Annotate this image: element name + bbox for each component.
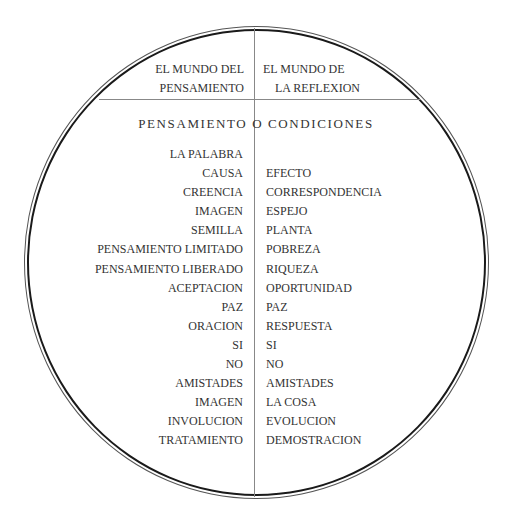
header-right-line-1: EL MUNDO DE	[263, 60, 360, 79]
right-item: EVOLUCION	[266, 412, 382, 431]
right-item: OPORTUNIDAD	[266, 279, 382, 298]
left-item: TRATAMIENTO	[95, 431, 243, 450]
right-item: NO	[266, 355, 382, 374]
left-item: IMAGEN	[95, 393, 243, 412]
left-item: CAUSA	[95, 164, 243, 183]
header-left-line-2: PENSAMIENTO	[155, 79, 244, 98]
right-item: LA COSA	[266, 393, 382, 412]
left-item: INVOLUCION	[95, 412, 243, 431]
horizontal-divider	[99, 99, 421, 100]
left-item: AMISTADES	[95, 374, 243, 393]
right-item: PAZ	[266, 298, 382, 317]
right-item: EFECTO	[266, 164, 382, 183]
left-item: LA PALABRA	[95, 145, 243, 164]
right-item: DEMOSTRACION	[266, 431, 382, 450]
diagram-subtitle: PENSAMIENTO O CONDICIONES	[0, 116, 512, 132]
header-left-line-1: EL MUNDO DEL	[155, 60, 244, 79]
right-column: EFECTO CORRESPONDENCIA ESPEJO PLANTA POB…	[266, 145, 382, 451]
left-item: SI	[95, 336, 243, 355]
left-item: PAZ	[95, 298, 243, 317]
right-item: RESPUESTA	[266, 317, 382, 336]
right-item: CORRESPONDENCIA	[266, 183, 382, 202]
left-item: PENSAMIENTO LIMITADO	[95, 240, 243, 259]
header-world-of-thought: EL MUNDO DEL PENSAMIENTO	[155, 60, 244, 98]
right-item: POBREZA	[266, 240, 382, 259]
header-right-line-2: LA REFLEXION	[263, 79, 360, 98]
right-item: AMISTADES	[266, 374, 382, 393]
right-item	[266, 145, 382, 164]
left-item: CREENCIA	[95, 183, 243, 202]
left-column: LA PALABRA CAUSA CREENCIA IMAGEN SEMILLA…	[95, 145, 243, 451]
right-item: RIQUEZA	[266, 260, 382, 279]
left-item: NO	[95, 355, 243, 374]
right-item: PLANTA	[266, 221, 382, 240]
left-item: SEMILLA	[95, 221, 243, 240]
left-item: ORACION	[95, 317, 243, 336]
left-item: IMAGEN	[95, 202, 243, 221]
right-item: SI	[266, 336, 382, 355]
header-world-of-reflection: EL MUNDO DE LA REFLEXION	[263, 60, 360, 98]
right-item: ESPEJO	[266, 202, 382, 221]
left-item: PENSAMIENTO LIBERADO	[95, 260, 243, 279]
left-item: ACEPTACION	[95, 279, 243, 298]
